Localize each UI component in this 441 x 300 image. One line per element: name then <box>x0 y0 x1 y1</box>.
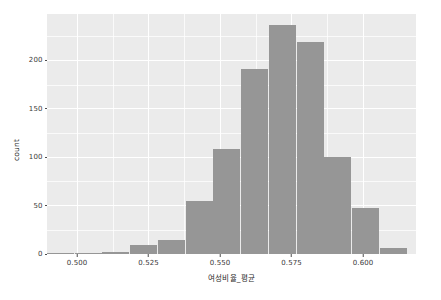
x-axis-tick: 0.525 <box>138 254 159 267</box>
gridline-major-horizontal <box>47 108 416 109</box>
gridline-minor-horizontal <box>47 36 416 37</box>
histogram-bar <box>213 149 240 254</box>
y-axis-tick: 50 <box>33 202 47 210</box>
x-axis-tick-label: 0.550 <box>210 259 231 267</box>
histogram-bar <box>324 157 351 254</box>
y-axis-title: count <box>12 139 21 161</box>
histogram-bar <box>269 25 296 254</box>
y-axis-tick: 150 <box>29 105 47 113</box>
x-axis-tick-label: 0.575 <box>281 259 302 267</box>
x-axis-tick: 0.500 <box>67 254 88 267</box>
histogram-bar <box>241 69 268 254</box>
x-axis-tick-label: 0.500 <box>67 259 88 267</box>
y-axis-tick-label: 0 <box>38 250 43 258</box>
y-axis-tick-label: 50 <box>33 202 42 210</box>
x-axis-tick-label: 0.600 <box>353 259 374 267</box>
gridline-minor-vertical <box>113 14 114 254</box>
gridline-major-horizontal <box>47 60 416 61</box>
gridline-major-vertical <box>77 14 78 254</box>
x-axis-tick-mark <box>363 254 364 257</box>
gridline-minor-horizontal <box>47 85 416 86</box>
x-axis-tick: 0.575 <box>281 254 302 267</box>
y-axis-tick-label: 100 <box>29 153 43 161</box>
x-axis-tick-mark <box>77 254 78 257</box>
plot-panel <box>47 14 416 254</box>
histogram-bar <box>352 208 379 254</box>
histogram-bar <box>297 42 324 254</box>
histogram-bar <box>130 245 157 254</box>
y-axis-tick: 100 <box>29 153 47 161</box>
y-axis-tick: 200 <box>29 56 47 64</box>
x-axis-tick-mark <box>148 254 149 257</box>
y-axis-tick-label: 150 <box>29 105 43 113</box>
y-axis: count 050100150200 <box>0 0 47 300</box>
histogram-bar <box>158 240 185 254</box>
gridline-major-vertical <box>148 14 149 254</box>
y-axis-tick: 0 <box>38 250 47 258</box>
x-axis-tick: 0.550 <box>210 254 231 267</box>
x-axis-tick: 0.600 <box>353 254 374 267</box>
histogram-plot: count 050100150200 0.5000.5250.5500.5750… <box>0 0 441 300</box>
x-axis: 0.5000.5250.5500.5750.600 여성비율_평균 <box>47 254 416 300</box>
histogram-bar <box>186 201 213 254</box>
x-axis-tick-mark <box>291 254 292 257</box>
x-axis-title: 여성비율_평균 <box>47 272 416 283</box>
x-axis-tick-label: 0.525 <box>138 259 159 267</box>
x-axis-tick-mark <box>220 254 221 257</box>
y-axis-tick-label: 200 <box>29 56 43 64</box>
gridline-minor-horizontal <box>47 133 416 134</box>
